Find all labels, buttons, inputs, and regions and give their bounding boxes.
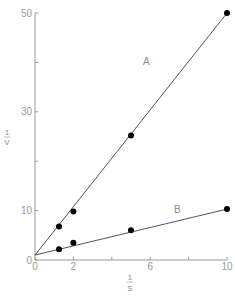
x-tick-label: 6: [147, 261, 153, 272]
data-point-b: [56, 246, 62, 252]
y-axis-label-denominator: V: [4, 138, 10, 147]
x-tick-label: 2: [71, 261, 77, 272]
lineweaver-burk-chart: 010305002610 A B 1 V 1 S: [0, 0, 235, 300]
data-point-a: [128, 133, 134, 139]
y-axis-label: 1 V: [4, 128, 10, 147]
y-tick-label: 30: [21, 106, 33, 117]
data-point-a: [224, 10, 230, 16]
y-axis-label-numerator: 1: [5, 128, 10, 137]
x-axis-label-denominator: S: [127, 284, 132, 293]
x-axis-label: 1 S: [127, 273, 133, 293]
y-tick-label: 50: [21, 8, 33, 19]
data-point-a: [70, 209, 76, 215]
series-a-label: A: [143, 56, 150, 67]
data-point-b: [70, 240, 76, 246]
x-tick-label: 10: [221, 261, 233, 272]
series-b-label: B: [174, 204, 181, 215]
data-point-a: [56, 223, 62, 229]
x-tick-label: 0: [32, 261, 38, 272]
y-tick-label: 10: [21, 205, 33, 216]
data-point-b: [224, 206, 230, 212]
data-point-b: [128, 227, 134, 233]
x-axis-label-numerator: 1: [128, 273, 133, 282]
data-points: [56, 10, 230, 252]
